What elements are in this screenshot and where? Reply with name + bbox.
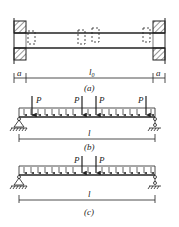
caption-a: (a) [84, 83, 95, 93]
load-label-b-1: P [35, 95, 42, 105]
figure-c [10, 156, 161, 203]
dim-l-c: l [88, 189, 91, 199]
caption-b: (b) [84, 142, 95, 152]
load-label-b-3: P [98, 95, 105, 105]
dashed-sections [28, 28, 150, 44]
distributed-load-c [24, 167, 151, 173]
dim-l-b: l [88, 128, 91, 138]
beam-c [19, 166, 155, 175]
left-support-b [10, 118, 27, 132]
point-loads-b [32, 96, 146, 115]
dimension-c [19, 195, 155, 203]
right-support-c [148, 176, 161, 190]
load-label-c-1: P [73, 155, 80, 165]
dim-a-left: a [17, 68, 22, 78]
dimension-b [19, 134, 155, 142]
caption-c: (c) [84, 207, 94, 217]
distributed-load-b [24, 109, 151, 115]
dim-a-right: a [156, 68, 161, 78]
right-support-b [148, 118, 161, 132]
load-label-b-4: P [137, 95, 144, 105]
point-loads-c [82, 156, 96, 173]
beam-b [19, 108, 155, 117]
beam-a [14, 33, 165, 48]
left-support-c [10, 176, 27, 190]
left-wall [14, 18, 26, 64]
right-wall [153, 18, 165, 64]
dim-l0: l0 [89, 67, 95, 78]
load-label-c-2: P [98, 155, 105, 165]
beam-diagrams: a l0 a (a) [0, 0, 179, 227]
load-label-b-2: P [73, 95, 80, 105]
